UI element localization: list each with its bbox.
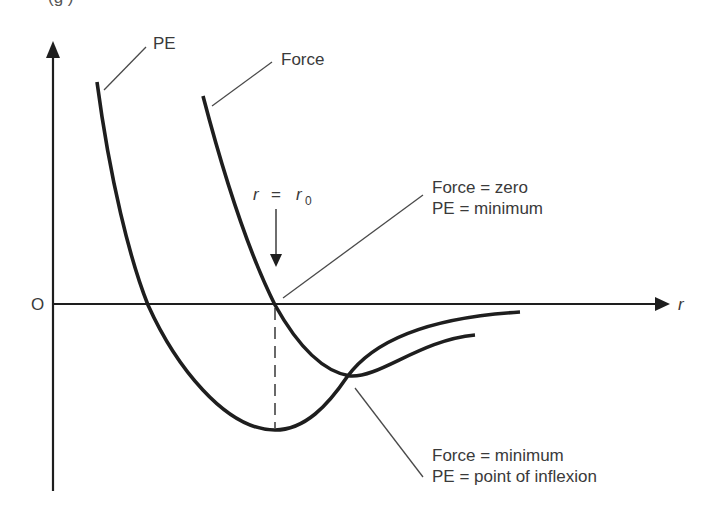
force-label: Force [281, 50, 324, 69]
diagram-canvas: O r r = r 0 PE Force Force = zero PE = m… [0, 0, 711, 520]
cropped-caption: (g ) [48, 0, 74, 8]
force-leader-line [212, 62, 272, 106]
pe-curve [97, 82, 520, 430]
r0-arrow-icon [270, 254, 282, 267]
pe-label: PE [153, 34, 176, 53]
origin-label: O [31, 295, 44, 314]
min-force-annotation-line2: PE = point of inflexion [432, 467, 597, 486]
x-axis-label: r [678, 295, 685, 314]
y-axis-arrow-icon [46, 41, 60, 58]
zero-force-annotation-line1: Force = zero [432, 178, 528, 197]
pe-leader-line [104, 47, 146, 90]
x-axis-arrow-icon [655, 297, 670, 311]
r0-marker-subscript: 0 [305, 194, 312, 208]
force-pe-diagram: (g ) O r r = r 0 PE Force [0, 0, 711, 520]
min-force-annotation-line1: Force = minimum [432, 446, 564, 465]
r0-marker-r: r [253, 185, 260, 204]
min-force-leader-line [355, 388, 423, 477]
force-curve [203, 96, 475, 376]
r0-marker-equals: = [271, 185, 281, 204]
r0-marker-r0: r [296, 185, 303, 204]
zero-force-leader-line [283, 195, 423, 298]
zero-force-annotation-line2: PE = minimum [432, 199, 543, 218]
